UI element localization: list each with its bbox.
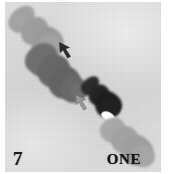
upper-arrow-icon <box>57 40 77 60</box>
specimen-label: ONE <box>107 152 141 167</box>
micrograph-panel: 7 ONE <box>5 2 161 172</box>
lower-arrow-icon <box>73 92 93 112</box>
figure-root: 7 ONE <box>0 0 169 174</box>
panel-label-number: 7 <box>13 149 23 168</box>
